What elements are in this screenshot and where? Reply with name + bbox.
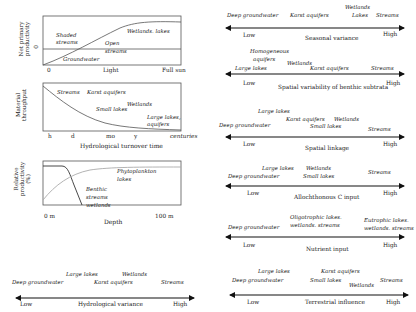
item-label: wetlands. streams (290, 222, 340, 228)
label-benthic: Benthic (86, 186, 107, 192)
item-label: Deep groundwater (219, 122, 270, 128)
item-label: Deep groundwater (12, 279, 63, 285)
item-label: Small lakes (303, 173, 334, 179)
gradient-title: Seasonal variance (305, 35, 358, 41)
item-label: Deep groundwater (228, 173, 279, 179)
high-label: High (386, 80, 400, 86)
x-tick: 100 m (155, 213, 173, 219)
x-tick: mo (106, 133, 115, 139)
x-tick: Full sun (162, 67, 186, 73)
y-axis-label: Relative productivity (%) (13, 158, 31, 200)
low-label: Low (243, 80, 255, 86)
label-phyto2: lakes (117, 176, 131, 182)
item-label: Large lakes (262, 165, 294, 171)
low-label: Low (247, 190, 259, 196)
x-tick: centuries (170, 133, 198, 139)
item-label: Karst aquifers (290, 12, 329, 18)
item-label: Deep groundwater (228, 224, 279, 230)
y-axis-label: Net primary productivity (18, 18, 30, 60)
x-tick: d (71, 133, 75, 139)
high-label: High (383, 190, 397, 196)
high-label: High (386, 299, 400, 305)
item-label: Streams (368, 126, 391, 132)
label-groundwater: Groundwater (63, 56, 99, 62)
diagram-graphics (0, 0, 416, 312)
low-label: Low (243, 242, 255, 248)
gradient-title: Terrestrial influence (305, 299, 365, 305)
item-label: Small lakes (310, 277, 341, 283)
label-large-lakes: Large lakes, (147, 114, 181, 120)
x-tick: 0 m (44, 213, 55, 219)
high-label: High (173, 301, 187, 307)
x-axis-label: Depth (104, 218, 122, 225)
item-label: Homogeneous (250, 48, 289, 54)
label-aquifers: aquifers (147, 121, 169, 127)
item-label: Small lakes (310, 123, 341, 129)
label-benthic2: streams (86, 194, 108, 200)
item-label: Wetlands (349, 282, 374, 288)
x-axis-label: Hydrological turnover time (80, 142, 163, 149)
item-label: Streams (376, 12, 399, 18)
item-label: Wetlands (306, 165, 331, 171)
item-label: Large lakes (235, 65, 267, 71)
x-tick: h (48, 133, 52, 139)
high-label: High (383, 242, 397, 248)
gradient-title: Spatial linkage (305, 145, 349, 151)
item-label: Karst aquifers (310, 65, 349, 71)
item-label: Karst aquifers (321, 268, 360, 274)
y-zero-label: 0 (33, 45, 39, 49)
low-label: Low (243, 141, 255, 147)
item-label: Streams (161, 279, 184, 285)
item-label: Deep groundwater (232, 277, 283, 283)
item-label: Lakes (352, 12, 368, 18)
low-label: Low (243, 32, 255, 38)
item-label: Oligotrophic lakes. (290, 214, 342, 220)
item-label: Wetlands (287, 60, 312, 66)
item-label: Streams (371, 65, 394, 71)
label-open2: streams (105, 48, 127, 54)
item-label: Karst aquifers (94, 279, 133, 285)
item-label: aquifers (253, 56, 275, 62)
item-label: Large lakes (66, 271, 98, 277)
label-open: Open (105, 40, 120, 46)
item-label: Large lakes (258, 268, 290, 274)
label-small-lakes: Small lakes (96, 106, 127, 112)
low-label: Low (247, 299, 259, 305)
y-label-line: productivity (24, 18, 30, 60)
label-shaded2: streams (56, 39, 78, 45)
label-shaded: Shaded (56, 32, 76, 38)
y-axis-label: Material throughput (15, 84, 27, 126)
label-wetlands-lakes: Wetlands. lakes (127, 28, 170, 34)
item-label: Wetlands (122, 271, 147, 277)
item-label: Streams (380, 277, 403, 283)
gradient-title: Hydrological variance (78, 301, 143, 307)
gradient-title: Nutrient input (306, 246, 348, 252)
item-label: Wetlands (345, 4, 370, 10)
item-label: Large lakes (258, 108, 290, 114)
label-wetlands: Wetlands (127, 101, 152, 107)
x-tick: 0 (47, 67, 51, 73)
item-label: Eutrophic lakes. (364, 217, 409, 223)
x-tick: Light (103, 67, 118, 73)
item-label: Deep groundwater (227, 12, 278, 18)
low-label: Low (20, 301, 32, 307)
item-label: Wetlands (334, 116, 359, 122)
gradient-title: Spatial variability of benthic subtrata (278, 84, 388, 90)
item-label: Karst aquifers (286, 116, 325, 122)
label-streams: Streams (57, 89, 80, 95)
x-tick: y (134, 133, 137, 139)
label-benthic3: wetlands (86, 202, 111, 208)
item-label: Streams (368, 169, 391, 175)
label-karst: Karst aquifers (87, 89, 126, 95)
gradient-title: Allochthonous C input (294, 194, 359, 200)
y-label-line: (%) (25, 158, 31, 200)
label-phyto: Phytoplankton (117, 168, 157, 174)
item-label: wetlands. streams (364, 225, 414, 231)
high-label: High (383, 141, 397, 147)
y-label-line: throughput (21, 84, 27, 126)
high-label: High (383, 31, 397, 37)
